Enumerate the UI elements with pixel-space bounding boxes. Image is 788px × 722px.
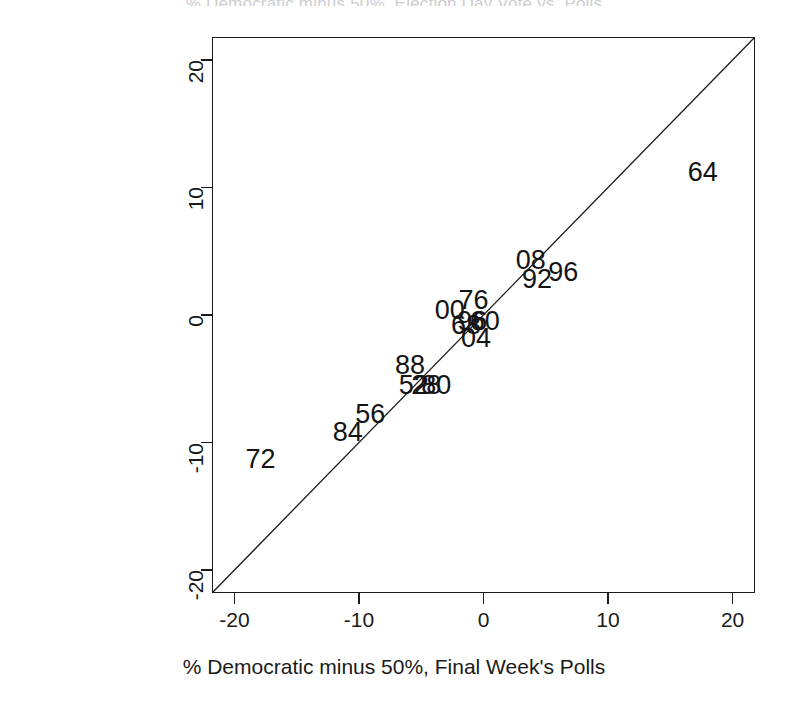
plot-area: 7284568852288000766896600408929664 [212,37,755,593]
x-tick-label-0: 0 [478,608,490,632]
y-tick-label-0: 0 [184,315,208,327]
scatter-plot-figure: % Democratic minus 50%, Election Day Vot… [0,0,788,722]
x-tick-label--10: -10 [344,608,374,632]
point-label-64-16: 64 [688,159,718,186]
x-tick-label-10: 10 [596,608,619,632]
point-label-80-6: 80 [421,372,451,399]
point-label-72-0: 72 [246,446,276,473]
point-label-56-2: 56 [355,401,385,428]
x-tick--10 [358,593,359,604]
point-label-96-15: 96 [548,258,578,285]
x-tick--20 [234,593,235,604]
x-tick-label--20: -20 [219,608,249,632]
x-tick-0 [483,593,484,604]
point-label-04-12: 04 [461,324,491,351]
x-tick-label-20: 20 [721,608,744,632]
x-axis-title: % Democratic minus 50%, Final Week's Pol… [0,655,788,679]
y-tick-label-20: 20 [184,60,208,83]
y-tick-label--20: -20 [184,570,208,600]
y-tick-label-10: 10 [184,187,208,210]
y-tick-label--10: -10 [184,443,208,473]
x-tick-20 [732,593,733,604]
figure-title: % Democratic minus 50%, Election Day Vot… [0,0,788,6]
x-tick-10 [607,593,608,604]
